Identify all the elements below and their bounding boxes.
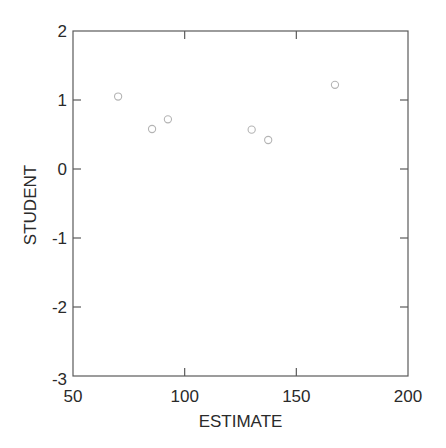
data-point-marker <box>115 93 122 100</box>
data-point-marker <box>164 116 171 123</box>
y-tick-label: -3 <box>52 370 67 389</box>
x-tick-label: 150 <box>282 387 310 406</box>
y-tick-label: -2 <box>52 298 67 317</box>
y-tick-label: 1 <box>58 91 67 110</box>
y-axis-title: STUDENT <box>21 165 40 245</box>
y-tick-label: 2 <box>58 22 67 41</box>
y-tick-label: 0 <box>58 160 67 179</box>
x-tick-label: 50 <box>64 387 83 406</box>
scatter-chart: 50100150200 210-1-2-3 ESTIMATE STUDENT <box>0 0 446 448</box>
x-tick-label: 200 <box>394 387 422 406</box>
y-tick-labels: 210-1-2-3 <box>52 22 67 389</box>
data-point-marker <box>148 125 155 132</box>
x-tick-labels: 50100150200 <box>64 387 423 406</box>
data-point-marker <box>265 136 272 143</box>
y-tick-label: -1 <box>52 229 67 248</box>
axis-ticks <box>73 31 408 376</box>
x-tick-label: 100 <box>170 387 198 406</box>
plot-frame <box>73 31 408 376</box>
x-axis-title: ESTIMATE <box>199 412 283 431</box>
data-points <box>115 81 339 143</box>
data-point-marker <box>331 81 338 88</box>
data-point-marker <box>248 126 255 133</box>
